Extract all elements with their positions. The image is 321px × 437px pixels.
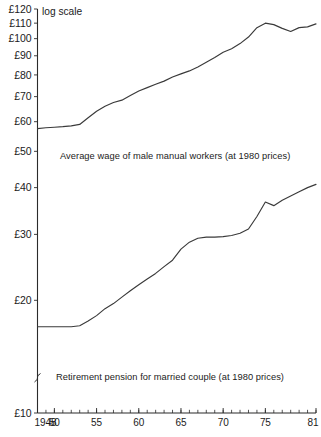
log-scale-note: log scale: [42, 6, 83, 17]
y-tick-label: £30: [14, 228, 31, 240]
y-tick-label: £80: [14, 69, 31, 81]
y-tick-label: £20: [14, 294, 31, 306]
y-tick-label: £70: [14, 90, 31, 102]
x-tick-label: 60: [133, 417, 144, 428]
y-tick-label: £40: [14, 181, 31, 193]
y-tick-label: £90: [14, 49, 31, 61]
y-tick-label: £10: [14, 407, 31, 419]
pension-series-line: [38, 184, 317, 326]
pension-caption: Retirement pension for married couple (a…: [56, 372, 284, 382]
y-tick-label: £100: [9, 32, 32, 44]
wage-caption: Average wage of male manual workers (at …: [60, 151, 290, 161]
x-tick-label: 75: [260, 417, 271, 428]
y-tick-label: £60: [14, 115, 31, 127]
x-tick-label: 70: [218, 417, 229, 428]
y-axis-labels: £120£110£100£90£80£70£60£50£40£30£20£10: [9, 3, 32, 419]
y-tick-label: £110: [9, 17, 31, 29]
chart-canvas: £120£110£100£90£80£70£60£50£40£30£20£10 …: [0, 0, 321, 437]
y-tick-label: £120: [9, 3, 32, 15]
cropped-top-title: [34, 0, 304, 5]
chart-figure: £120£110£100£90£80£70£60£50£40£30£20£10 …: [0, 0, 321, 437]
x-axis-labels: 194850556065707581: [35, 417, 319, 428]
x-tick-label: 50: [49, 417, 60, 428]
y-tick-label: £50: [14, 145, 31, 157]
x-tick-label: 81: [308, 417, 319, 428]
wage-series-line: [38, 23, 317, 128]
x-tick-label: 55: [91, 417, 102, 428]
x-axis-major-ticks: [38, 408, 317, 413]
x-tick-label: 65: [176, 417, 187, 428]
